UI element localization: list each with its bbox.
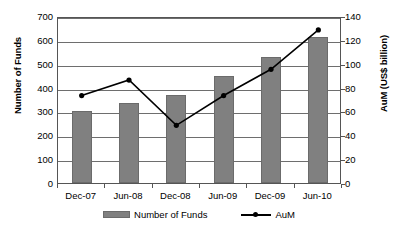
x-axis-tick-label: Dec-07 [65,190,96,201]
y-axis-left-tick-label: 600 [7,36,53,46]
x-axis-tickmark [57,184,58,188]
x-axis-tickmark [199,184,200,188]
y-axis-right-tick-label: 80 [345,84,385,94]
x-axis-tickmark [294,184,295,188]
y-axis-left-tick-label: 500 [7,60,53,70]
y-axis-right-tickmark [341,17,345,18]
x-axis-tickmark [246,184,247,188]
plot-area [57,17,341,184]
y-axis-right: 020406080100120140 [345,17,391,184]
x-axis: Dec-07Jun-08Dec-08Jun-09Dec-09Jun-10 [57,184,341,206]
y-axis-right-tickmark [341,41,345,42]
y-axis-left-tick-label: 200 [7,132,53,142]
data-point-marker [79,93,84,98]
chart-legend: Number of Funds AuM [0,209,398,220]
data-point-marker [174,123,179,128]
data-point-marker [221,93,226,98]
legend-item-aum: AuM [241,209,295,220]
y-axis-left-tick-label: 300 [7,108,53,118]
x-axis-tick-label: Jun-10 [303,190,332,201]
y-axis-right-tick-label: 120 [345,36,385,46]
y-axis-right-tick-label: 140 [345,12,385,22]
bar-swatch-icon [103,211,130,218]
y-axis-right-tick-label: 100 [345,60,385,70]
legend-item-number-of-funds: Number of Funds [103,209,207,220]
x-axis-tickmark [104,184,105,188]
line-path [82,30,319,125]
x-axis-tick-label: Jun-09 [208,190,237,201]
x-axis-tickmark [152,184,153,188]
y-axis-right-tickmark [341,136,345,137]
chart-container: Number of Funds AuM (US$ billion) 010020… [0,0,398,239]
y-axis-left-tick-label: 0 [7,179,53,189]
data-point-marker [126,77,131,82]
y-axis-left-tick-label: 100 [7,155,53,165]
x-axis-tick-label: Dec-09 [255,190,286,201]
y-axis-left-tick-label: 700 [7,12,53,22]
y-axis-left-tick-label: 400 [7,84,53,94]
legend-item-label: Number of Funds [134,209,207,220]
y-axis-right-tick-label: 20 [345,155,385,165]
y-axis-right-tick-label: 60 [345,108,385,118]
data-point-marker [316,27,321,32]
y-axis-left: 0100200300400500600700 [3,17,53,184]
y-axis-right-tickmark [341,160,345,161]
x-axis-tick-label: Jun-08 [113,190,142,201]
y-axis-right-tickmark [341,65,345,66]
line-marker-swatch-icon [241,210,271,219]
y-axis-right-tickmark [341,112,345,113]
x-axis-tickmark [341,184,342,188]
data-point-marker [268,67,273,72]
y-axis-right-tick-label: 0 [345,179,385,189]
line-series-aum [58,18,342,185]
x-axis-tick-label: Dec-08 [160,190,191,201]
legend-item-label: AuM [275,209,295,220]
y-axis-right-tickmark [341,89,345,90]
y-axis-right-tick-label: 40 [345,132,385,142]
